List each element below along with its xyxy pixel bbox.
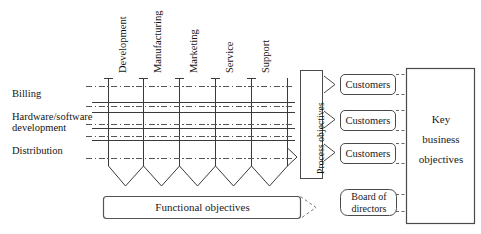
funnel-marketing: [180, 166, 216, 186]
matrix-column-lines: [109, 78, 288, 166]
row-label-billing: Billing: [12, 88, 41, 100]
key-business-objectives-line-1: Key: [407, 111, 475, 128]
row-label-hardware-software: Hardware/software: [12, 111, 92, 123]
funnel-shapes: [109, 166, 288, 186]
matrix-right-arrow-tip: [288, 148, 298, 166]
functional-objectives-label: Functional objectives: [104, 196, 301, 219]
customers-label-2: Customers: [340, 110, 396, 131]
column-label-support: Support: [260, 40, 271, 73]
column-label-service: Service: [224, 42, 235, 74]
column-label-marketing: Marketing: [188, 29, 199, 73]
row-label-distribution: Distribution: [12, 145, 63, 157]
functional-objectives-arrowhead: [301, 197, 317, 219]
diagram-canvas: Billing Hardware/software development Di…: [0, 0, 481, 234]
key-business-objectives-line-3: objectives: [407, 151, 475, 168]
matrix-row-lines-solid: [92, 103, 295, 141]
process-objectives-label: Process objectives: [316, 102, 326, 174]
column-label-development: Development: [117, 16, 128, 73]
funnel-support: [252, 166, 288, 186]
customers-label-1: Customers: [340, 74, 396, 95]
funnel-service: [216, 166, 252, 186]
funnel-development: [109, 166, 144, 186]
funnel-manufacturing: [144, 166, 180, 186]
customers-label-3: Customers: [340, 143, 396, 164]
key-business-objectives-line-2: business: [407, 131, 475, 148]
board-of-directors-line-2: directors: [341, 203, 397, 215]
column-label-manufacturing: Manufacturing: [152, 11, 163, 73]
board-of-directors-line-1: Board of: [341, 191, 397, 203]
matrix-right-arrow: [288, 148, 298, 166]
customers-to-kbo-connectors: [396, 75, 406, 212]
chevron-arrow-1: [324, 76, 335, 93]
matrix-row-lines-dashed: [86, 87, 295, 159]
row-label-development: development: [12, 122, 66, 134]
